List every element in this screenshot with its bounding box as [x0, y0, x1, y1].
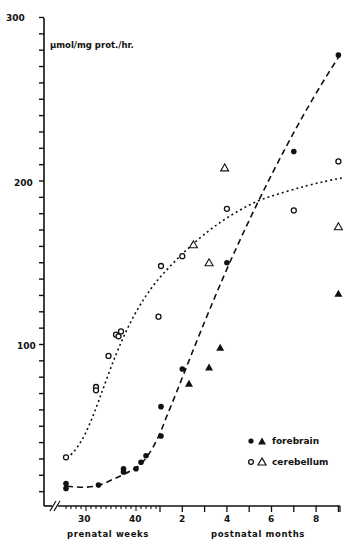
cerebellum-data-point — [64, 455, 69, 460]
cerebellum-data-point — [291, 208, 296, 213]
x-axis-title-postnatal: postnatal months — [211, 529, 305, 539]
cerebellum-fit-curve — [67, 178, 342, 458]
cerebellum-data-point — [156, 314, 161, 319]
forebrain-data-point — [138, 459, 144, 465]
x-tick-label-30: 30 — [78, 514, 91, 524]
forebrain-data-point — [121, 469, 127, 475]
forebrain-data-point — [224, 260, 230, 266]
x-tick-label-4mo: 4 — [224, 514, 230, 524]
forebrain-data-point — [158, 433, 164, 439]
y-tick-label-100: 100 — [17, 341, 36, 351]
y-tick-label-200: 200 — [14, 178, 33, 188]
x-tick-label-2mo: 2 — [179, 514, 185, 524]
x-axis-ticks — [66, 506, 340, 512]
cerebellum-data-point — [221, 164, 229, 171]
cerebellum-data-point — [334, 223, 342, 230]
forebrain-data-point — [96, 482, 102, 488]
cerebellum-data-point — [180, 254, 185, 259]
forebrain-data-point — [133, 466, 139, 472]
forebrain-data-point — [143, 453, 149, 459]
cerebellum-data-point — [159, 264, 164, 269]
cerebellum-data-point — [94, 388, 99, 393]
x-tick-label-8mo: 8 — [313, 514, 319, 524]
forebrain-data-point — [180, 366, 186, 372]
legend-filled-triangle-icon — [258, 438, 266, 445]
y-tick-label-300: 300 — [6, 13, 25, 23]
forebrain-data-point — [63, 481, 69, 487]
forebrain-data-point — [63, 486, 69, 492]
legend: forebrain cerebellum — [248, 436, 328, 467]
cerebellum-data-point — [106, 353, 111, 358]
forebrain-data-point — [291, 149, 297, 155]
y-axis-unit-label: µmol/mg prot./hr. — [50, 40, 134, 50]
x-axis-title-prenatal: prenatal weeks — [67, 529, 149, 539]
cerebellum-data-point — [224, 206, 229, 211]
legend-label-cerebellum: cerebellum — [272, 457, 328, 467]
data-points — [63, 52, 342, 491]
cerebellum-data-point — [336, 159, 341, 164]
legend-open-circle-icon — [249, 460, 254, 465]
cerebellum-data-point — [116, 334, 121, 339]
forebrain-data-point — [336, 52, 342, 58]
x-tick-label-6mo: 6 — [268, 514, 274, 524]
forebrain-data-point — [205, 363, 213, 370]
cerebellum-data-point — [205, 259, 213, 266]
forebrain-data-point — [185, 380, 193, 387]
legend-filled-circle-icon — [248, 438, 253, 443]
forebrain-fit-curve — [67, 52, 342, 487]
forebrain-data-point — [158, 404, 164, 410]
legend-label-forebrain: forebrain — [272, 436, 319, 446]
legend-open-triangle-icon — [258, 458, 266, 465]
chart-canvas: 300 200 100 µmol/mg prot./hr. 30 40 2 4 … — [0, 0, 357, 546]
x-tick-label-40: 40 — [129, 514, 142, 524]
forebrain-data-point — [334, 290, 342, 297]
forebrain-data-point — [216, 344, 224, 351]
cerebellum-data-point — [119, 329, 124, 334]
